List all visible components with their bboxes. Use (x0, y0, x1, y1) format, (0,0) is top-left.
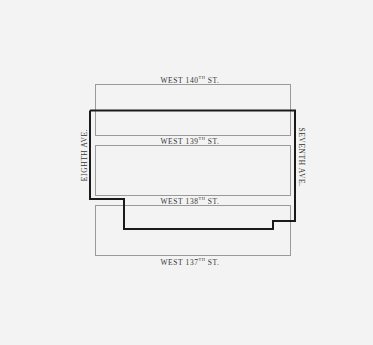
district-boundary-outline (0, 0, 373, 345)
